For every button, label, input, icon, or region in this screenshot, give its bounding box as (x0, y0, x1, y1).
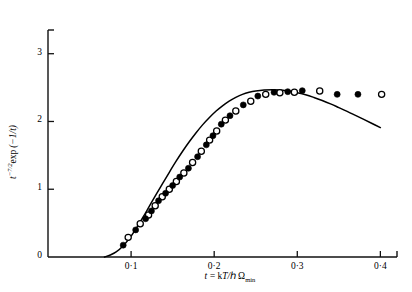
data-point-open (137, 221, 143, 227)
data-point-open (248, 98, 254, 104)
data-point-filled (170, 183, 176, 189)
data-point-filled (227, 113, 233, 119)
data-point-open (277, 90, 283, 96)
y-axis-label: t−7/2exp (−1/t) (6, 0, 18, 92)
y-tick-label: 3 (26, 47, 42, 57)
data-point-filled (177, 174, 183, 180)
axis-lines (48, 30, 397, 257)
data-point-filled (299, 88, 305, 94)
data-point-filled (218, 121, 224, 127)
data-point-filled (133, 227, 139, 233)
data-point-filled (255, 93, 261, 99)
data-point-open (125, 234, 131, 240)
data-point-filled (148, 208, 154, 214)
theory-curve (105, 90, 381, 257)
x-tick-label: 0·4 (365, 261, 395, 271)
data-point-open (233, 108, 239, 114)
x-axis-label: t = kT/ℎ Ωmin (150, 270, 310, 283)
data-point-filled (240, 102, 246, 108)
data-point-open (317, 88, 323, 94)
chart-figure: 0123 0·10·20·30·4 t−7/2exp (−1/t) t = kT… (0, 0, 412, 292)
data-point-filled (163, 190, 169, 196)
data-point-filled (355, 91, 361, 97)
data-point-filled (334, 91, 340, 97)
y-tick-label: 1 (26, 182, 42, 192)
data-point-filled (285, 89, 291, 95)
y-tick-label: 0 (26, 250, 42, 260)
data-point-filled (195, 154, 201, 160)
data-point-filled (156, 198, 162, 204)
data-point-filled (210, 133, 216, 139)
data-point-open (263, 91, 269, 97)
plot-canvas (0, 0, 412, 292)
data-point-open (379, 91, 385, 97)
data-point-open (291, 89, 297, 95)
x-tick-label: 0·1 (116, 261, 146, 271)
data-point-filled (143, 216, 149, 222)
data-point-filled (203, 142, 209, 148)
x-axis-ticks (131, 251, 380, 257)
data-point-open (189, 159, 195, 165)
y-axis-ticks (48, 54, 54, 190)
data-point-filled (271, 89, 277, 95)
y-axis-label-text: t−7/2exp (−1/t) (6, 92, 18, 212)
data-point-filled (185, 165, 191, 171)
data-point-filled (120, 242, 126, 248)
filled-circle-data-points (120, 88, 361, 248)
y-tick-label: 2 (26, 114, 42, 124)
data-point-open (198, 148, 204, 154)
